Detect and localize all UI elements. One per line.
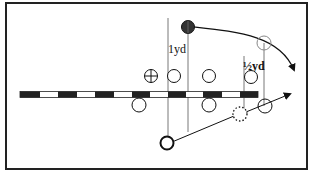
top-player-2-icon — [203, 70, 216, 83]
bottom-player-1-icon — [132, 98, 146, 112]
lower-route-line — [172, 116, 234, 142]
top-player-3-icon — [245, 71, 258, 84]
bottom-player-2-icon — [202, 98, 216, 112]
top-player-1-icon — [168, 70, 181, 83]
play-diagram: 1yd ½yd — [0, 0, 314, 174]
one-yard-label: 1yd — [168, 42, 186, 56]
crosshair-player-icon — [145, 70, 158, 83]
line-of-scrimmage — [20, 92, 258, 98]
dotted-player-icon — [233, 107, 247, 121]
bold-player-icon — [161, 137, 174, 150]
